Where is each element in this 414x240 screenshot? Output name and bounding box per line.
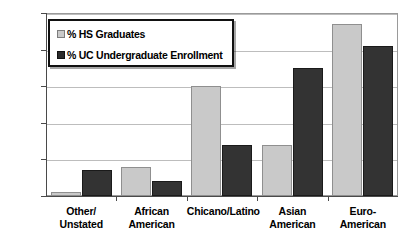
bar <box>332 24 362 196</box>
x-axis-tick-label: Chicano/Latino <box>187 205 257 218</box>
x-axis-tick-mark <box>328 196 329 201</box>
bar-group <box>257 13 327 196</box>
bar-group <box>328 13 398 196</box>
x-axis <box>46 196 398 197</box>
legend-item-hs-graduates: % HS Graduates <box>57 28 145 40</box>
x-axis-tick-label: AfricanAmerican <box>116 205 186 230</box>
chart-legend: % HS Graduates % UC Undergraduate Enroll… <box>48 19 234 67</box>
x-axis-tick-mark <box>257 196 258 201</box>
x-axis-tick-label: AsianAmerican <box>257 205 327 230</box>
bar <box>152 181 182 196</box>
bar-chart: 0%10%20%30%40%50% Other/UnstatedAfricanA… <box>0 0 414 240</box>
light-gray-square-icon <box>57 30 65 38</box>
bar <box>191 86 221 196</box>
bar <box>121 167 151 196</box>
x-axis-tick-label: Other/Unstated <box>46 205 116 230</box>
x-axis-tick-mark <box>187 196 188 201</box>
bar <box>293 68 323 196</box>
x-axis-tick-mark <box>116 196 117 201</box>
bar <box>222 145 252 196</box>
x-axis-tick-label: Euro-American <box>328 205 398 230</box>
legend-item-uc-undergraduate-enrollment: % UC Undergraduate Enrollment <box>57 49 223 61</box>
bar <box>262 145 292 196</box>
bar <box>82 170 112 196</box>
bar <box>363 46 393 196</box>
legend-label: % HS Graduates <box>67 28 145 40</box>
dark-square-icon <box>57 51 65 59</box>
legend-label: % UC Undergraduate Enrollment <box>67 49 223 61</box>
